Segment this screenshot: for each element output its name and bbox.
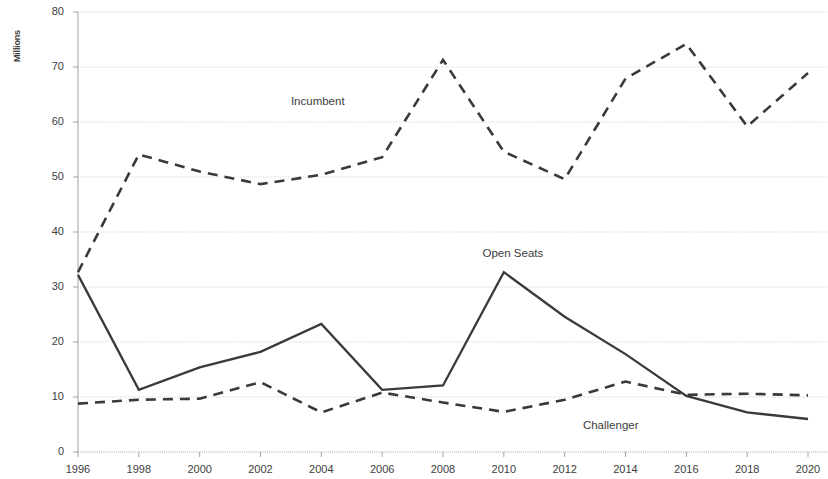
x-tick-label: 2004 bbox=[295, 464, 347, 475]
x-tick-label: 2014 bbox=[600, 464, 652, 475]
y-tick-label: 10 bbox=[30, 391, 64, 402]
line-chart-plot bbox=[0, 0, 828, 479]
chart-axes bbox=[78, 12, 828, 452]
y-tick-label: 50 bbox=[30, 171, 64, 182]
y-tick-label: 0 bbox=[30, 446, 64, 457]
series-annotation-challenger: Challenger bbox=[583, 419, 639, 431]
series-annotation-incumbent: Incumbent bbox=[291, 95, 345, 107]
y-axis-title: Millions bbox=[12, 30, 22, 62]
x-tick-label: 2002 bbox=[235, 464, 287, 475]
y-tick-label: 30 bbox=[30, 281, 64, 292]
x-tick-label: 1998 bbox=[113, 464, 165, 475]
series-line-incumbent bbox=[78, 44, 808, 272]
y-axis-tick-marks bbox=[73, 12, 78, 452]
x-tick-label: 2010 bbox=[478, 464, 530, 475]
y-tick-label: 80 bbox=[30, 6, 64, 17]
y-tick-label: 40 bbox=[30, 226, 64, 237]
y-tick-label: 60 bbox=[30, 116, 64, 127]
x-tick-label: 1996 bbox=[52, 464, 104, 475]
x-tick-label: 2000 bbox=[174, 464, 226, 475]
y-tick-label: 70 bbox=[30, 61, 64, 72]
x-tick-label: 2018 bbox=[721, 464, 773, 475]
x-tick-label: 2006 bbox=[356, 464, 408, 475]
x-tick-label: 2016 bbox=[660, 464, 712, 475]
x-tick-label: 2012 bbox=[539, 464, 591, 475]
x-tick-label: 2008 bbox=[417, 464, 469, 475]
data-series-layer bbox=[78, 44, 808, 419]
chart-container: Millions 01020304050607080 1996199820002… bbox=[0, 0, 828, 479]
y-tick-label: 20 bbox=[30, 336, 64, 347]
gridlines bbox=[78, 12, 828, 397]
series-annotation-open-seats: Open Seats bbox=[483, 247, 544, 259]
x-tick-label: 2020 bbox=[782, 464, 828, 475]
x-axis-tick-marks bbox=[78, 452, 808, 457]
